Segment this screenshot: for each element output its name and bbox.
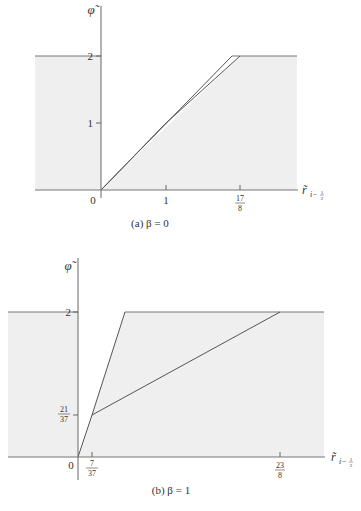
x-axis-frac-num: 1 [321,190,324,195]
xtick-1-label: 1 [163,194,169,206]
x-axis-subscript: i− [339,457,347,466]
shaded-region-right [78,312,324,457]
ytick-1-label: 1 [88,117,94,129]
origin-label: 0 [90,194,96,206]
ytick-21-37-num: 21 [60,405,68,414]
ytick-2-label: 2 [88,50,94,62]
panel-a: 2 1 0 1 17 8 φ̃ r̃ i− 1 2 (a) β = 0 [35,2,324,230]
panel-b: 2 21 37 0 7 37 23 8 φ̃ r̃ i− 1 2 (b) β =… [8,258,353,497]
xtick-7-37-den: 37 [88,469,96,478]
shaded-region-right [101,56,297,190]
x-axis-frac-den: 2 [350,463,353,468]
caption-b: (b) β = 1 [152,484,190,497]
x-axis-label: r̃ [331,450,337,464]
x-axis-label: r̃ [302,183,308,197]
ytick-21-37-den: 37 [60,415,68,424]
x-axis-frac-num: 1 [350,457,353,462]
xtick-17-8-den: 8 [238,204,242,213]
shaded-region-left [8,312,78,457]
xtick-7-37-num: 7 [90,459,94,468]
y-axis-label: φ̃ [87,2,100,17]
xtick-17-8-num: 17 [236,194,244,203]
y-axis-label: φ̃ [64,258,77,273]
origin-label: 0 [68,459,74,471]
caption-a: (a) β = 0 [131,217,169,230]
ytick-2-label: 2 [66,306,72,318]
x-axis-subscript: i− [310,190,318,199]
figure: 2 1 0 1 17 8 φ̃ r̃ i− 1 2 (a) β = 0 [0,0,361,511]
xtick-23-8-num: 23 [276,461,284,470]
xtick-23-8-den: 8 [278,471,282,480]
x-axis-frac-den: 2 [321,196,324,201]
